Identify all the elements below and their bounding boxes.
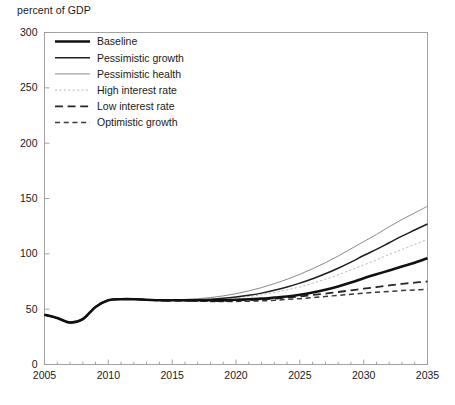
svg-text:2005: 2005: [33, 369, 57, 381]
series-lines: [45, 206, 428, 322]
line-chart-svg: 050100150200250300 200520102015202020252…: [0, 0, 455, 405]
legend-label-high-interest-rate: High interest rate: [97, 84, 177, 96]
svg-text:2025: 2025: [288, 369, 312, 381]
series-line-pessimistic-growth: [45, 224, 428, 323]
svg-text:150: 150: [20, 192, 38, 204]
legend-label-low-interest-rate: Low interest rate: [97, 100, 175, 112]
legend-label-optimistic-growth: Optimistic growth: [97, 116, 178, 128]
svg-text:2035: 2035: [416, 369, 440, 381]
chart-legend: BaselinePessimistic growthPessimistic he…: [55, 35, 184, 128]
svg-text:100: 100: [20, 247, 38, 259]
svg-text:2015: 2015: [160, 369, 184, 381]
series-line-pessimistic-health: [45, 206, 428, 322]
svg-text:300: 300: [20, 26, 38, 38]
legend-label-baseline: Baseline: [97, 35, 137, 47]
series-line-optimistic-growth: [45, 289, 428, 322]
chart-figure: percent of GDP 050100150200250300 200520…: [0, 0, 455, 405]
svg-text:2010: 2010: [97, 369, 121, 381]
plot-frame: [45, 33, 428, 365]
svg-text:200: 200: [20, 137, 38, 149]
svg-text:50: 50: [26, 303, 38, 315]
x-axis-ticks: 2005201020152020202520302035: [33, 360, 440, 381]
svg-text:250: 250: [20, 81, 38, 93]
svg-text:2030: 2030: [352, 369, 376, 381]
svg-text:2020: 2020: [224, 369, 248, 381]
plot-area: 050100150200250300 200520102015202020252…: [0, 0, 455, 405]
series-line-baseline: [45, 258, 428, 322]
y-axis-ticks: 050100150200250300: [20, 26, 50, 370]
legend-label-pessimistic-growth: Pessimistic growth: [97, 52, 184, 64]
legend-label-pessimistic-health: Pessimistic health: [97, 68, 181, 80]
